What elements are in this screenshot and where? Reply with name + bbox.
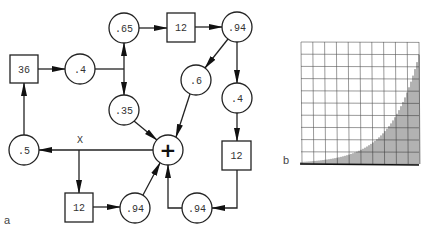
node-label: 12 [230, 151, 242, 162]
node-label: 12 [175, 23, 187, 34]
node-label: 12 [73, 203, 85, 214]
node-circle-05: .5 [9, 135, 39, 165]
node-label: .6 [190, 76, 202, 87]
node-label: .65 [115, 24, 133, 35]
node-box-12-right: 12 [222, 141, 251, 170]
plus-icon: + [160, 138, 177, 162]
chart-grid [301, 42, 420, 164]
node-circle-04-right: .4 [222, 83, 252, 113]
node-circle-065: .65 [109, 13, 139, 43]
node-label: .94 [188, 204, 206, 215]
node-box-36: 36 [10, 55, 38, 83]
node-label: .4 [74, 65, 86, 76]
output-label-x: X [77, 135, 83, 146]
node-label: .4 [231, 94, 243, 105]
node-label: .5 [18, 146, 30, 157]
figure: 36 .4 .65 12 .94 .6 .4 .35 [0, 0, 428, 234]
node-box-12-top: 12 [167, 13, 195, 42]
node-box-12-bottom: 12 [65, 193, 93, 222]
node-sum: + [153, 135, 183, 165]
node-label: .35 [115, 106, 133, 117]
panel-label-a: a [4, 214, 11, 226]
panel-label-b: b [283, 154, 289, 166]
chart-baseline [300, 164, 419, 165]
node-label: .94 [126, 204, 144, 215]
node-circle-094-top: .94 [222, 12, 252, 42]
impulse-response-chart [300, 42, 420, 165]
node-circle-035: .35 [109, 95, 139, 125]
node-label: .94 [228, 23, 246, 34]
node-circle-06: .6 [181, 65, 211, 95]
node-label: 36 [18, 65, 30, 76]
node-circle-04-left: .4 [65, 54, 95, 84]
node-circle-094-bottom: .94 [120, 193, 150, 223]
node-circle-094-bottomright: .94 [182, 193, 212, 223]
